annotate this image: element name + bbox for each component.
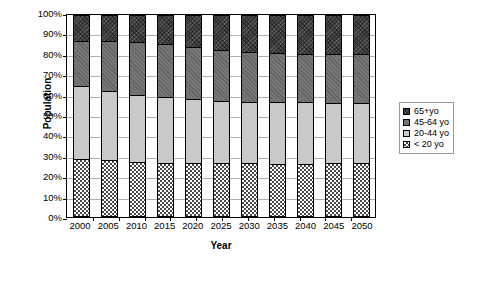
- y-tick-label: 70%: [22, 70, 62, 80]
- bar-segment[interactable]: [269, 53, 286, 102]
- legend: 65+yo45-64 yo20-44 yo< 20 yo: [399, 102, 454, 154]
- legend-item[interactable]: 65+yo: [403, 106, 449, 117]
- y-tickmark: [63, 219, 67, 220]
- bar-segment[interactable]: [185, 99, 202, 163]
- bar-segment[interactable]: [353, 103, 370, 164]
- bar-segment[interactable]: [241, 52, 258, 101]
- bar-segment[interactable]: [297, 102, 314, 163]
- bar-column[interactable]: [157, 15, 174, 217]
- bar-column[interactable]: [101, 15, 118, 217]
- legend-label: < 20 yo: [414, 140, 444, 149]
- y-tick-label: 20%: [22, 172, 62, 182]
- legend-item[interactable]: 45-64 yo: [403, 117, 449, 128]
- bar-segment[interactable]: [185, 163, 202, 217]
- bar-segment[interactable]: [185, 15, 202, 47]
- x-tick-label: 2045: [320, 221, 348, 237]
- legend-swatch-icon: [403, 119, 410, 126]
- y-tick-label: 0%: [22, 213, 62, 223]
- y-tick-label: 100%: [22, 9, 62, 19]
- bar-segment[interactable]: [325, 54, 342, 102]
- bar-segment[interactable]: [73, 15, 90, 41]
- bar-segment[interactable]: [325, 163, 342, 217]
- bar-segment[interactable]: [241, 102, 258, 164]
- x-tick-label: 2050: [348, 221, 376, 237]
- bar-column[interactable]: [241, 15, 258, 217]
- bar-segment[interactable]: [269, 102, 286, 163]
- x-axis-title: Year: [66, 240, 376, 251]
- bar-segment[interactable]: [241, 15, 258, 52]
- legend-item[interactable]: < 20 yo: [403, 139, 449, 150]
- bar-segment[interactable]: [297, 164, 314, 217]
- bar-segment[interactable]: [129, 95, 146, 162]
- bar-segment[interactable]: [241, 163, 258, 217]
- bar-segment[interactable]: [101, 15, 118, 41]
- y-tick-label: 30%: [22, 152, 62, 162]
- bar-segment[interactable]: [297, 15, 314, 54]
- bar-segment[interactable]: [73, 159, 90, 217]
- bar-column[interactable]: [73, 15, 90, 217]
- bar-segment[interactable]: [157, 44, 174, 97]
- bar-segment[interactable]: [353, 163, 370, 217]
- bar-segment[interactable]: [101, 160, 118, 217]
- y-tick-label: 40%: [22, 132, 62, 142]
- legend-item[interactable]: 20-44 yo: [403, 128, 449, 139]
- bar-segment[interactable]: [129, 162, 146, 217]
- bar-series-group: [67, 15, 375, 217]
- x-tick-label: 2015: [151, 221, 179, 237]
- bar-segment[interactable]: [213, 15, 230, 50]
- bar-segment[interactable]: [101, 91, 118, 161]
- legend-label: 65+yo: [414, 107, 439, 116]
- bar-segment[interactable]: [101, 41, 118, 90]
- bar-segment[interactable]: [269, 15, 286, 53]
- legend-label: 45-64 yo: [414, 118, 449, 127]
- bar-column[interactable]: [129, 15, 146, 217]
- y-tick-label: 90%: [22, 30, 62, 40]
- bar-column[interactable]: [185, 15, 202, 217]
- legend-swatch-icon: [403, 130, 410, 137]
- bar-segment[interactable]: [269, 164, 286, 217]
- x-tick-label: 2035: [263, 221, 291, 237]
- bar-segment[interactable]: [129, 42, 146, 95]
- bar-segment[interactable]: [325, 103, 342, 164]
- bar-segment[interactable]: [157, 163, 174, 217]
- bar-segment[interactable]: [213, 101, 230, 164]
- legend-swatch-icon: [403, 141, 410, 148]
- legend-swatch-icon: [403, 108, 410, 115]
- x-tick-label: 2010: [122, 221, 150, 237]
- bar-column[interactable]: [297, 15, 314, 217]
- bar-segment[interactable]: [353, 54, 370, 102]
- x-tick-label: 2030: [235, 221, 263, 237]
- x-tick-label: 2040: [292, 221, 320, 237]
- x-tick-label: 2000: [66, 221, 94, 237]
- y-tick-label: 80%: [22, 50, 62, 60]
- y-axis-tick-labels: 0%10%20%30%40%50%60%70%80%90%100%: [22, 12, 62, 218]
- x-axis-tick-labels: 2000200520102015202020252030203520402045…: [66, 221, 376, 237]
- bar-segment[interactable]: [73, 41, 90, 85]
- bar-segment[interactable]: [185, 47, 202, 99]
- bar-segment[interactable]: [157, 15, 174, 44]
- bar-segment[interactable]: [325, 15, 342, 54]
- x-tick-label: 2025: [207, 221, 235, 237]
- bar-segment[interactable]: [213, 163, 230, 217]
- bar-segment[interactable]: [353, 15, 370, 54]
- bar-segment[interactable]: [73, 86, 90, 159]
- bar-column[interactable]: [213, 15, 230, 217]
- bar-column[interactable]: [325, 15, 342, 217]
- legend-label: 20-44 yo: [414, 129, 449, 138]
- bar-column[interactable]: [353, 15, 370, 217]
- x-tick-label: 2020: [179, 221, 207, 237]
- y-tick-label: 10%: [22, 193, 62, 203]
- y-tick-label: 60%: [22, 91, 62, 101]
- stacked-bar-chart: Population 0%10%20%30%40%50%60%70%80%90%…: [0, 0, 488, 285]
- bar-column[interactable]: [269, 15, 286, 217]
- bar-segment[interactable]: [297, 54, 314, 102]
- bar-segment[interactable]: [129, 15, 146, 42]
- bar-segment[interactable]: [157, 97, 174, 162]
- y-tick-label: 50%: [22, 111, 62, 121]
- bar-segment[interactable]: [213, 50, 230, 101]
- x-tick-label: 2005: [94, 221, 122, 237]
- plot-area: [66, 14, 376, 218]
